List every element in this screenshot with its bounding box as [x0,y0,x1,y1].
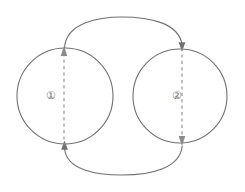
node-label-one: ① [46,90,56,101]
diagram-svg [0,0,245,192]
diagram-canvas: ① ② [0,0,245,192]
arrowhead-internal-two-icon [179,136,186,146]
node-circle-one [17,48,113,144]
node-label-two: ② [172,90,182,101]
connector-arc-top [65,17,183,48]
connector-arc-bottom [65,146,183,175]
